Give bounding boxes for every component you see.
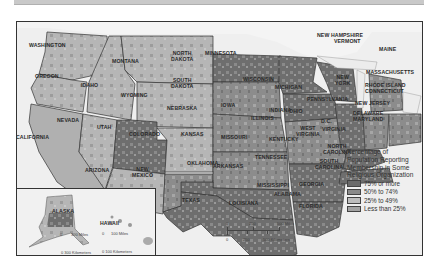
scale-miles-500: 500 Miles [277, 221, 294, 226]
legend: Percentage of Population Reporting Membe… [347, 148, 423, 213]
scale-km-250: 250 [243, 237, 250, 242]
label-maine: MAINE [379, 46, 396, 52]
label-alaska: ALASKA [52, 208, 74, 214]
label-new-york: NEWYORK [335, 74, 350, 86]
label-maryland: MARYLAND [353, 116, 383, 122]
legend-swatch [347, 189, 361, 196]
hawaii-scale-zero: 0 [102, 231, 104, 236]
label-wisconsin: WISCONSIN [243, 76, 274, 82]
label-indiana: INDIANA [269, 107, 291, 113]
label-texas: TEXAS [182, 197, 200, 203]
label-idaho: IDAHO [81, 82, 98, 88]
scale-km-500: 500 Kilometers [263, 237, 290, 242]
label-new-mexico: NEWMEXICO [132, 166, 153, 178]
legend-item-25-to-49: 25% to 49% [347, 197, 423, 205]
legend-item-75-or-more: 75% or more [347, 180, 423, 188]
label-nebraska: NEBRASKA [167, 105, 197, 111]
legend-item-less-than-25: Less than 25% [347, 205, 423, 213]
label-iowa: IOWA [221, 102, 235, 108]
label-colorado: COLORADO [129, 131, 160, 137]
label-minnesota: MINNESOTA [205, 50, 237, 56]
label-oregon: OREGON [35, 73, 59, 79]
label-alabama: ALABAMA [274, 191, 301, 197]
label-nevada: NEVADA [57, 117, 79, 123]
label-louisiana: LOUISIANA [229, 200, 258, 206]
main-scale-bar: 0 250 500 Miles 0 250 500 Kilometers [227, 221, 307, 249]
label-massachusetts: MASSACHUSETTS [366, 69, 414, 75]
scale-miles-250: 250 [249, 221, 256, 226]
label-kansas: KANSAS [181, 131, 204, 137]
label-pennsylvania: PENNSYLVANIA [307, 96, 348, 102]
label-utah: UTAH [97, 124, 111, 130]
label-wyoming: WYOMING [121, 92, 148, 98]
label-north-dakota: NORTHDAKOTA [171, 50, 193, 62]
label-illinois: ILLINOIS [251, 115, 274, 121]
label-mississippi: MISSISSIPPI [257, 182, 289, 188]
label-south-carolina: SOUTHCAROLINA [315, 158, 343, 170]
scale-miles-0: 0 [226, 221, 228, 226]
hawaii-scale-miles: 100 Miles [111, 231, 128, 236]
label-vermont: VERMONT [334, 38, 361, 44]
label-dc: D.C. [321, 118, 332, 124]
label-ohio: OHIO [289, 108, 303, 114]
legend-swatch [347, 206, 361, 213]
alaska-scale-miles: 300 Miles [71, 232, 88, 237]
label-arkansas: ARKANSAS [213, 163, 243, 169]
label-hawaii: HAWAII [100, 220, 119, 226]
label-michigan: MICHIGAN [275, 84, 302, 90]
label-florida: FLORIDA [299, 203, 323, 209]
label-kentucky: KENTUCKY [269, 136, 299, 142]
alaska-scale-km: 0 300 Kilometers [61, 250, 91, 255]
label-new-jersey: NEW JERSEY [355, 100, 390, 106]
label-california: CALIFORNIA [16, 134, 49, 140]
label-west-virginia: WESTVIRGINIA [296, 125, 320, 137]
alaska-inset: ALASKA 0 300 Miles 0 300 Kilometers [16, 188, 101, 256]
top-bar [14, 0, 424, 5]
label-washington: WASHINGTON [29, 42, 66, 48]
legend-swatch [347, 180, 361, 187]
map-frame: WASHINGTON OREGON CALIFORNIA IDAHO NEVAD… [16, 21, 423, 256]
label-georgia: GEORGIA [299, 181, 324, 187]
alaska-graphic [17, 189, 102, 256]
alaska-scale-zero: 0 [60, 232, 62, 237]
label-connecticut: CONNECTICUT [365, 88, 404, 94]
legend-title: Percentage of Population Reporting Membe… [347, 148, 423, 179]
legend-swatch [347, 197, 361, 204]
label-virginia: VIRGINIA [322, 126, 346, 132]
label-south-dakota: SOUTHDAKOTA [171, 77, 193, 89]
label-tennessee: TENNESSEE [255, 154, 287, 160]
hawaii-scale-km: 0 100 Kilometers [102, 249, 132, 254]
label-missouri: MISSOURI [221, 134, 247, 140]
scale-km-0: 0 [226, 237, 228, 242]
legend-item-50-to-74: 50% to 74% [347, 188, 423, 196]
hawaii-inset: HAWAII 0 100 Miles 0 100 Kilometers [100, 188, 156, 256]
label-montana: MONTANA [112, 58, 139, 64]
label-arizona: ARIZONA [85, 167, 109, 173]
